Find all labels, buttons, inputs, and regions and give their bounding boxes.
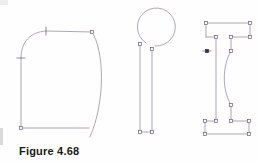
web-right-concave-arc	[224, 51, 231, 105]
top-horizontal-edge	[46, 31, 92, 32]
node-web-left-selected[interactable]	[205, 49, 208, 52]
figure-caption: Figure 4.68	[19, 144, 79, 158]
node-bottom-right-outer[interactable]	[247, 132, 250, 135]
node-bottom-left-outer[interactable]	[203, 132, 206, 135]
node-stem-left-top[interactable]	[138, 42, 141, 45]
node-top-flange-left-step[interactable]	[214, 35, 217, 38]
node-top-right[interactable]	[90, 30, 93, 33]
node-top-flange-right-step[interactable]	[229, 35, 232, 38]
node-top-left-outer[interactable]	[204, 21, 207, 24]
top-left-fillet	[21, 31, 46, 58]
node-top-right-inner[interactable]	[248, 35, 251, 38]
technical-drawing-canvas	[0, 0, 258, 163]
i-beam-section-shape	[203, 21, 252, 135]
right-convex-curve	[90, 32, 102, 137]
node-stem-left-bottom[interactable]	[138, 130, 141, 133]
node-bottom-left[interactable]	[19, 126, 22, 129]
node-stem-right-bottom[interactable]	[150, 130, 153, 133]
node-stem-right-top[interactable]	[150, 47, 153, 50]
node-web-right-arc-bottom[interactable]	[229, 103, 232, 106]
node-web-right-arc-top[interactable]	[229, 49, 232, 52]
rounded-profile-shape	[17, 27, 102, 138]
node-top-right-outer[interactable]	[248, 21, 251, 24]
node-bottom-left-inner[interactable]	[203, 119, 206, 122]
node-bottom-flange-right-step[interactable]	[229, 119, 232, 122]
figure-page: Figure 4.68	[0, 0, 258, 163]
balloon-with-stem-shape	[137, 8, 175, 134]
circle-outline	[137, 8, 175, 46]
node-bottom-flange-left-step[interactable]	[214, 119, 217, 122]
node-bottom-right-inner[interactable]	[247, 119, 250, 122]
